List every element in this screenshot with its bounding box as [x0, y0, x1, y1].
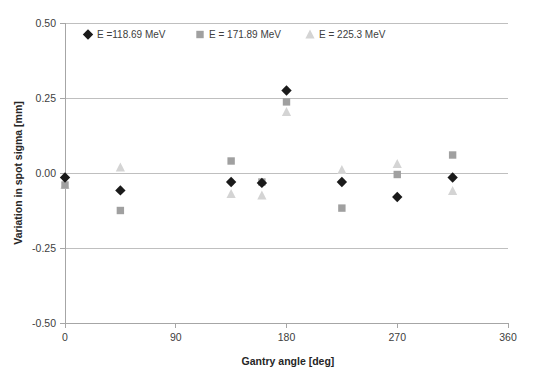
gridlines-group: [65, 23, 508, 323]
point-square-1: [117, 207, 124, 214]
point-square-4: [283, 98, 290, 105]
y-axis-title: Variation in spot sigma [mm]: [12, 101, 24, 245]
x-axis-title: Gantry angle [deg]: [242, 355, 335, 367]
legend-marker-diamond: [83, 29, 93, 39]
chart-canvas: 090180270360 0.500.250.00-0.25-0.50 E =1…: [0, 0, 536, 379]
point-diamond-1: [115, 185, 125, 195]
point-diamond-2: [226, 177, 236, 187]
point-triangle-7: [448, 186, 457, 195]
data-points-group: [60, 85, 458, 214]
y-tick-label-0: 0.50: [36, 17, 57, 29]
point-triangle-4: [282, 107, 291, 116]
point-triangle-1: [116, 163, 125, 172]
legend-label-0: E =118.69 MeV: [97, 29, 166, 40]
y-tick-label-1: 0.25: [36, 92, 57, 104]
point-triangle-2: [227, 189, 236, 198]
legend-label-2: E = 225.3 MeV: [319, 29, 386, 40]
y-tick-label-3: -0.25: [32, 242, 56, 254]
scatter-chart: 090180270360 0.500.250.00-0.25-0.50 E =1…: [0, 0, 536, 379]
point-diamond-7: [447, 172, 457, 182]
point-triangle-5: [337, 165, 346, 174]
legend: E =118.69 MeVE = 171.89 MeVE = 225.3 MeV: [83, 29, 386, 40]
x-tick-label-2: 180: [278, 331, 296, 343]
x-tick-group: 090180270360: [62, 323, 517, 343]
point-square-2: [227, 157, 234, 164]
x-tick-label-3: 270: [388, 331, 406, 343]
series-diamond: [60, 85, 458, 202]
legend-label-1: E = 171.89 MeV: [209, 29, 281, 40]
x-tick-label-1: 90: [170, 331, 182, 343]
point-diamond-5: [337, 177, 347, 187]
point-diamond-6: [392, 192, 402, 202]
y-tick-label-2: 0.00: [36, 167, 57, 179]
point-diamond-0: [60, 172, 70, 182]
legend-marker-square: [196, 31, 203, 38]
legend-marker-triangle: [305, 30, 314, 39]
y-tick-group: 0.500.250.00-0.25-0.50: [32, 17, 65, 329]
point-triangle-3: [257, 191, 266, 200]
point-square-7: [449, 151, 456, 158]
point-triangle-6: [393, 159, 402, 168]
point-diamond-4: [281, 85, 291, 95]
point-square-6: [394, 171, 401, 178]
y-tick-label-4: -0.50: [32, 317, 56, 329]
x-tick-label-4: 360: [499, 331, 517, 343]
point-square-5: [338, 204, 345, 211]
x-tick-label-0: 0: [62, 331, 68, 343]
